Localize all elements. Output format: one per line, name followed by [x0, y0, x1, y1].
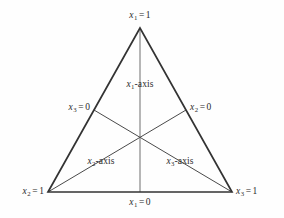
edge-right-val: 0: [207, 102, 212, 112]
vertex-bl-val: 1: [39, 186, 44, 196]
edge-label-left: x3=0: [69, 103, 90, 113]
vertex-top-eq: =: [137, 10, 145, 20]
axis-x3-suffix: -axis: [175, 156, 194, 166]
edge-label-right: x2=0: [190, 103, 211, 113]
vertex-top-val: 1: [146, 10, 151, 20]
axis-label-x3: x3-axis: [166, 157, 193, 167]
vertex-label-bottom-right: x3=1: [236, 187, 257, 197]
edge-label-bottom: x1=0: [129, 198, 150, 208]
figure-canvas: x1=1 x1-axis x3=0 x2=0 x2-axis x3-axis x…: [0, 0, 284, 218]
axis-label-x1: x1-axis: [126, 80, 153, 90]
vertex-br-val: 1: [253, 186, 258, 196]
edge-bottom-val: 0: [146, 197, 151, 207]
axis-x2-sub: 2: [92, 160, 96, 167]
edge-left-eq: =: [77, 102, 85, 112]
vertex-bl-eq: =: [31, 186, 39, 196]
edge-bottom-sub: 1: [134, 201, 138, 208]
edge-bottom-eq: =: [137, 197, 145, 207]
vertex-top-sub: 1: [134, 14, 138, 21]
vertex-label-bottom-left: x2=1: [23, 187, 44, 197]
edge-left-val: 0: [85, 102, 90, 112]
axis-x1-sub: 1: [131, 83, 135, 90]
axis-x2-suffix: -axis: [96, 156, 115, 166]
edge-left-sub: 3: [73, 106, 77, 113]
edge-right-eq: =: [198, 102, 206, 112]
axis-x1-suffix: -axis: [135, 79, 154, 89]
edge-right-sub: 2: [194, 106, 198, 113]
axis-x3-sub: 3: [171, 160, 175, 167]
x2-axis-line: [48, 110, 186, 192]
axis-label-x2: x2-axis: [87, 157, 114, 167]
vertex-label-top: x1=1: [129, 11, 150, 21]
vertex-br-eq: =: [244, 186, 252, 196]
x3-axis-line: [94, 110, 232, 192]
vertex-br-sub: 3: [240, 190, 244, 197]
vertex-bl-sub: 2: [27, 190, 31, 197]
